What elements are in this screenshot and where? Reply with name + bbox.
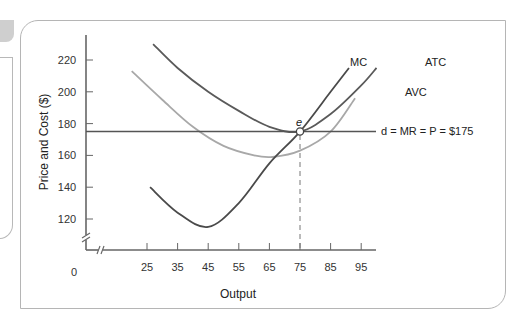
y-tick-label: 160 (58, 149, 76, 161)
x-tick-label: 35 (171, 261, 183, 273)
x-tick-label: 75 (294, 261, 306, 273)
y-axis-title: Price and Cost ($) (37, 94, 51, 191)
x-tick-label: 55 (233, 261, 245, 273)
y-tick-label: 220 (58, 54, 76, 66)
equilibrium-point (296, 128, 303, 135)
x-tick-label: 25 (141, 261, 153, 273)
x-tick-label: 45 (202, 261, 214, 273)
origin-label: 0 (71, 266, 77, 278)
mc-curve (150, 68, 349, 227)
mc-label: MC (350, 56, 367, 68)
atc-curve (153, 44, 376, 132)
x-tick-label: 85 (324, 261, 336, 273)
avc-label: AVC (405, 86, 427, 98)
x-ticks: 2535455565758595 (141, 243, 367, 273)
x-tick-label: 65 (263, 261, 275, 273)
x-axis (86, 246, 376, 254)
atc-label: ATC (425, 56, 446, 68)
equilibrium-label: e (296, 116, 302, 128)
y-tick-label: 200 (58, 86, 76, 98)
x-axis-title: Output (220, 287, 257, 301)
y-axis (82, 35, 90, 250)
y-tick-label: 180 (58, 118, 76, 130)
y-tick-label: 120 (58, 213, 76, 225)
x-tick-label: 95 (355, 261, 367, 273)
cost-curves-chart: 120140160180200220 2535455565758595 0 Ou… (0, 0, 530, 330)
demand-label: d = MR = P = $175 (381, 125, 473, 137)
y-tick-label: 140 (58, 181, 76, 193)
y-ticks: 120140160180200220 (58, 54, 93, 225)
